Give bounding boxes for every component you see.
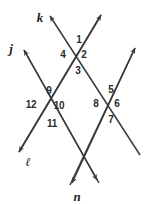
angle-label-12: 12: [26, 100, 37, 110]
line-label-n: n: [73, 190, 80, 203]
angle-label-3: 3: [75, 66, 80, 76]
angle-label-10: 10: [54, 101, 65, 111]
diagram-canvas: [0, 0, 146, 204]
angle-label-6: 6: [114, 99, 119, 109]
geometry-diagram: k j ℓ n 1 2 3 4 9 10 11 12 5 6 7 8: [0, 0, 146, 204]
line-l-lower: [19, 15, 101, 152]
line-label-j: j: [9, 42, 13, 55]
line-j-lower: [24, 50, 97, 180]
angle-label-2: 2: [81, 50, 86, 60]
angle-label-7: 7: [108, 115, 113, 125]
angle-label-4: 4: [60, 50, 65, 60]
angle-label-5: 5: [108, 85, 113, 95]
line-label-k: k: [37, 11, 44, 24]
line-label-l: ℓ: [25, 156, 30, 168]
angle-label-8: 8: [93, 99, 98, 109]
angle-label-9: 9: [46, 86, 51, 96]
angle-label-1: 1: [76, 35, 81, 45]
angle-label-11: 11: [47, 119, 57, 129]
line-n-lower: [72, 48, 135, 183]
